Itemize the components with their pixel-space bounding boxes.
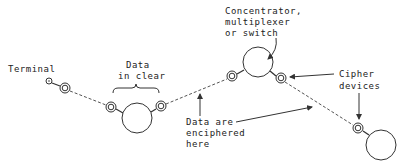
cipher-devices-label-1: Cipher [339,69,375,79]
data-enciphered-label-3: here [186,139,210,149]
cipher-device-5 [276,73,286,83]
host-node [366,130,396,160]
cipher-devices-label-2: devices [339,81,380,91]
data-enciphered-arrow-2 [236,107,312,122]
data-in-clear-label-2: in clear [118,71,165,81]
cipher-device-4 [227,71,237,81]
cipher-device-3 [156,101,166,111]
concentrator-node [243,47,273,77]
intermediate-node [122,103,152,133]
link-cipher4-concentrator [237,70,244,74]
data-in-clear-label-1: Data [126,60,150,70]
link-cipher2-node [116,109,123,113]
data-enciphered-label-2: enciphered [186,128,245,138]
cipher-network-diagram: Terminal Data in clear Concentrator, mul… [0,0,401,164]
cipher-device-6 [353,123,363,133]
terminal-node [46,78,52,84]
cipher-devices-arrow-1 [290,74,334,77]
concentrator-label-3: or switch [225,28,278,38]
concentrator-label-1: Concentrator, [225,6,302,16]
encrypted-link-2 [166,79,227,104]
encrypted-link-1 [70,91,106,105]
terminal-link [52,83,60,86]
link-node-cipher3 [151,109,156,112]
link-cipher6-host [363,131,369,135]
data-in-clear-brace [113,84,159,93]
data-enciphered-label-1: Data are [186,117,233,127]
cipher-device-1 [60,83,70,93]
concentrator-label-2: multiplexer [225,17,290,27]
link-concentrator-cipher5 [270,71,276,76]
cipher-device-2 [106,102,116,112]
terminal-label: Terminal [8,64,55,74]
